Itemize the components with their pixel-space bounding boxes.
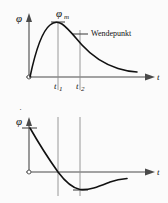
tick-label-t2-subscript: 2 [81,85,85,93]
lower-y-axis-label-dot: ̇ [20,109,22,110]
lower-y-axis-arrowhead [26,117,32,126]
upper-y-axis-label: φ [16,12,22,24]
upper-y-axis-arrowhead [26,13,32,22]
lower-y-axis-label: φ [16,115,22,127]
lower-x-axis-arrowhead [145,169,155,176]
peak-label: φ [56,7,62,19]
upper-x-axis-label: t [157,72,160,82]
phi-dot-curve [30,128,127,190]
figure-canvas: φ φ m Wendepunkt t 1 t 2 t [0,0,168,203]
upper-x-axis-arrowhead [145,74,155,81]
tick-label-t1: t [54,81,57,91]
lower-plot: φ ̇ t [16,109,160,196]
peak-label-subscript: m [64,13,69,21]
physics-response-figure: φ φ m Wendepunkt t 1 t 2 t [0,0,168,203]
lower-origin-marker [27,170,31,174]
lower-x-axis-label: t [157,167,160,177]
tick-label-t2: t [76,81,79,91]
tick-label-t1-subscript: 1 [59,85,63,93]
wendepunkt-label: Wendepunkt [91,29,132,38]
upper-plot: φ φ m Wendepunkt t 1 t 2 t [16,7,160,93]
